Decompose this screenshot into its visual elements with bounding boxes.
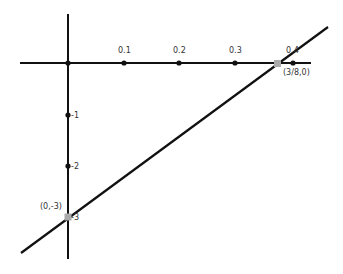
y-intercept-label: (0,-3)	[40, 202, 62, 211]
x-intercept-label: (3/8,0)	[283, 68, 310, 77]
y-tick-label: -2	[71, 162, 79, 171]
y-tick-label: -1	[71, 111, 79, 120]
x-tick-label: 0.4	[286, 46, 299, 55]
x-tick-label: 0.2	[173, 46, 186, 55]
x-tick-label: 0.3	[229, 46, 242, 55]
y-tick-label: -3	[71, 213, 79, 222]
y-tick--3: -3	[71, 213, 79, 222]
origin-dot	[65, 60, 70, 65]
y-intercept-point: (0,-3)	[40, 202, 72, 221]
coordinate-graph: 0.1 0.2 0.3 0.4 -1 -2 -3 (3/8,0) (0,-3)	[0, 0, 343, 274]
x-tick-label: 0.1	[118, 46, 131, 55]
